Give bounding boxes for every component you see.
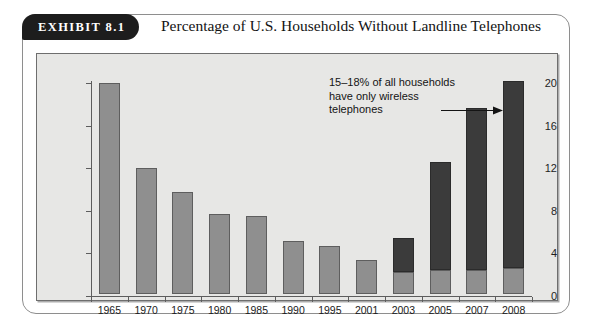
x-tick-label: 2003 xyxy=(392,305,415,316)
x-tick-mark xyxy=(165,297,166,302)
x-tick-label: 1985 xyxy=(245,305,268,316)
bar-1970 xyxy=(136,168,157,294)
bar-segment-upper xyxy=(393,238,414,272)
x-tick-label: 1980 xyxy=(208,305,231,316)
bar-segment-lower xyxy=(136,168,157,294)
bar-segment-lower xyxy=(503,268,524,294)
exhibit-title: Percentage of U.S. Households Without La… xyxy=(161,17,541,35)
y-axis-line xyxy=(91,81,92,297)
bar-1990 xyxy=(283,241,304,294)
x-tick-mark xyxy=(238,297,239,302)
bar-segment-lower xyxy=(430,270,451,294)
bar-2005 xyxy=(430,162,451,294)
x-tick-mark xyxy=(385,297,386,302)
x-tick-label: 2001 xyxy=(355,305,378,316)
x-tick-mark xyxy=(459,297,460,302)
bar-segment-lower xyxy=(393,272,414,294)
bar-1975 xyxy=(172,192,193,294)
x-tick-label: 1965 xyxy=(98,305,121,316)
x-tick-label: 1975 xyxy=(171,305,194,316)
bar-segment-lower xyxy=(356,260,377,294)
x-tick-label: 2007 xyxy=(465,305,488,316)
x-tick-label: 1970 xyxy=(134,305,157,316)
bar-2003 xyxy=(393,238,414,294)
bar-segment-lower xyxy=(246,216,267,294)
right-arrow-icon xyxy=(441,106,504,115)
bar-segment-lower xyxy=(319,246,340,294)
y-tick-mark xyxy=(86,253,92,254)
bar-segment-upper xyxy=(430,162,451,270)
exhibit-badge: EXHIBIT 8.1 xyxy=(22,14,139,40)
bar-1965 xyxy=(99,83,120,294)
y-tick-mark xyxy=(86,83,92,84)
exhibit-card: EXHIBIT 8.1 Percentage of U.S. Household… xyxy=(22,14,570,314)
bar-segment-lower xyxy=(172,192,193,294)
chart-plot-panel: 048121620 196519701975198019851990199520… xyxy=(36,53,558,301)
x-tick-mark xyxy=(312,297,313,302)
bar-segment-upper xyxy=(466,108,487,270)
x-tick-mark xyxy=(348,297,349,302)
x-tick-mark xyxy=(422,297,423,302)
y-tick-mark xyxy=(86,211,92,212)
x-tick-mark xyxy=(201,297,202,302)
x-tick-mark xyxy=(532,297,533,302)
x-tick-mark xyxy=(495,297,496,302)
x-tick-label: 2008 xyxy=(502,305,525,316)
bar-1985 xyxy=(246,216,267,294)
x-tick-label: 2005 xyxy=(428,305,451,316)
x-tick-label: 1990 xyxy=(281,305,304,316)
bar-1980 xyxy=(209,214,230,294)
exhibit-header: EXHIBIT 8.1 Percentage of U.S. Household… xyxy=(23,15,569,47)
y-tick-mark xyxy=(86,168,92,169)
bar-2001 xyxy=(356,260,377,294)
bar-2008 xyxy=(503,81,524,294)
bar-1995 xyxy=(319,246,340,294)
bar-segment-lower xyxy=(99,83,120,294)
bar-segment-lower xyxy=(209,214,230,294)
bar-2007 xyxy=(466,108,487,294)
bar-segment-lower xyxy=(283,241,304,294)
bar-segment-lower xyxy=(466,270,487,294)
x-tick-mark xyxy=(128,297,129,302)
x-tick-mark xyxy=(275,297,276,302)
x-tick-label: 1995 xyxy=(318,305,341,316)
y-tick-mark xyxy=(86,126,92,127)
chart-area: 048121620 196519701975198019851990199520… xyxy=(37,54,557,300)
bar-segment-upper xyxy=(503,81,524,268)
x-tick-mark xyxy=(91,297,92,302)
